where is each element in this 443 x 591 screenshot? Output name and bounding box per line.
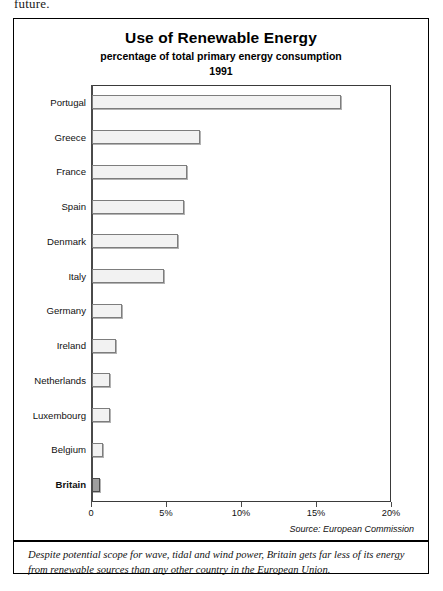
chart-figure: Use of Renewable Energy percentage of to… [13,18,429,574]
bar-rows: PortugalGreeceFranceSpainDenmarkItalyGer… [14,85,428,502]
bar-track [92,189,428,224]
caption-divider [14,540,428,542]
bar-label-italy: Italy [14,271,86,282]
table-row: Denmark [14,224,428,259]
x-tick [316,502,317,507]
bar-track [92,120,428,155]
bar-spain [92,200,184,214]
bar-france [92,165,187,179]
bar-label-portugal: Portugal [14,97,86,108]
x-tick-label: 0 [88,508,93,518]
table-row: Germany [14,294,428,329]
bar-greece [92,130,200,144]
bar-germany [92,304,122,318]
table-row: Spain [14,189,428,224]
chart-subtitle: percentage of total primary energy consu… [14,50,428,63]
bar-italy [92,269,164,283]
bar-label-belgium: Belgium [14,444,86,455]
bar-label-greece: Greece [14,132,86,143]
bar-luxembourg [92,408,110,422]
chart-header: Use of Renewable Energy percentage of to… [14,19,428,78]
x-tick-label: 5% [159,508,172,518]
bar-belgium [92,443,103,457]
x-tick [166,502,167,507]
chart-title: Use of Renewable Energy [14,28,428,47]
bar-britain [92,478,100,492]
bar-track [92,85,428,120]
table-row: France [14,155,428,190]
bar-track [92,398,428,433]
bar-portugal [92,95,341,109]
table-row: Italy [14,259,428,294]
table-row: Luxembourg [14,398,428,433]
chart-caption: Despite potential scope for wave, tidal … [28,547,415,578]
table-row: Portugal [14,85,428,120]
bar-label-spain: Spain [14,201,86,212]
bar-denmark [92,234,178,248]
bar-track [92,433,428,468]
bar-track [92,259,428,294]
bar-label-netherlands: Netherlands [14,375,86,386]
bar-ireland [92,339,116,353]
x-tick [91,502,92,507]
chart-year: 1991 [14,65,428,78]
bar-label-luxembourg: Luxembourg [14,410,86,421]
x-tick-label: 20% [382,508,400,518]
bar-label-ireland: Ireland [14,340,86,351]
bar-track [92,224,428,259]
bar-label-denmark: Denmark [14,236,86,247]
bar-track [92,328,428,363]
bar-label-britain: Britain [14,479,86,490]
bar-track [92,363,428,398]
table-row: Belgium [14,433,428,468]
bar-label-germany: Germany [14,305,86,316]
cut-off-body-text: future. [14,0,50,12]
table-row: Greece [14,120,428,155]
bar-label-france: France [14,166,86,177]
table-row: Britain [14,467,428,502]
bar-netherlands [92,373,110,387]
table-row: Netherlands [14,363,428,398]
bar-track [92,294,428,329]
bar-track [92,155,428,190]
x-tick [241,502,242,507]
x-tick [391,502,392,507]
x-tick-label: 15% [307,508,325,518]
plot-area: PortugalGreeceFranceSpainDenmarkItalyGer… [14,85,428,515]
x-tick-label: 10% [232,508,250,518]
bar-track [92,467,428,502]
table-row: Ireland [14,328,428,363]
source-credit: Source: European Commission [289,524,414,534]
